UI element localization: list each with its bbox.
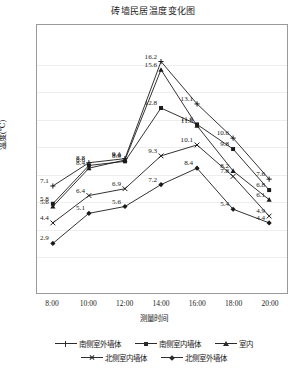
data-point-marker bbox=[50, 183, 55, 188]
series-layer: 7.18.89.116.213.110.67.65.88.68.912.811.… bbox=[37, 25, 287, 293]
data-point-label: 15.6 bbox=[145, 61, 158, 69]
y-axis-title: 温度(℃) bbox=[0, 120, 7, 150]
legend-row: 南侧室外墙体南侧室内墙体室内 bbox=[0, 338, 307, 349]
legend-label: 北侧室外墙体 bbox=[185, 352, 227, 363]
data-point-label: 13.1 bbox=[181, 95, 194, 103]
series-line bbox=[53, 168, 269, 243]
data-point-label: 9.8 bbox=[220, 140, 229, 148]
data-point-label: 8.4 bbox=[76, 159, 85, 167]
x-axis-title: 测量时间 bbox=[0, 312, 307, 323]
data-point-marker bbox=[122, 204, 127, 209]
legend-item[interactable]: 南侧室内墙体 bbox=[135, 338, 201, 349]
data-point-marker bbox=[267, 220, 272, 225]
data-point-label: 7.2 bbox=[148, 176, 157, 184]
plus-marker-icon bbox=[55, 340, 77, 348]
x-tick-label: 8:00 bbox=[45, 299, 58, 308]
x-tick-label: 10:00 bbox=[80, 299, 97, 308]
legend-item[interactable]: 南侧室外墙体 bbox=[55, 338, 121, 349]
data-point-label: 8.4 bbox=[184, 159, 193, 167]
data-point-marker bbox=[158, 182, 163, 187]
square-marker-icon bbox=[135, 340, 157, 348]
chart-page: 砖墙民居温度变化图 温度(℃) 7.18.89.116.213.110.67.6… bbox=[0, 0, 307, 390]
data-point-marker bbox=[231, 147, 235, 151]
data-point-label: 6.8 bbox=[256, 181, 265, 189]
legend-label: 北侧室内墙体 bbox=[105, 352, 147, 363]
data-point-label: 10.6 bbox=[217, 129, 230, 137]
data-point-label: 4.4 bbox=[256, 214, 265, 222]
x-tick-label: 14:00 bbox=[152, 299, 169, 308]
legend-row: 北侧室内墙体北侧室外墙体 bbox=[0, 352, 307, 363]
legend-label: 室内 bbox=[239, 338, 253, 349]
x-marker-icon bbox=[81, 354, 103, 362]
data-point-label: 6.9 bbox=[112, 180, 121, 188]
data-point-marker bbox=[159, 106, 163, 110]
legend-item[interactable]: 室内 bbox=[215, 338, 253, 349]
legend-label: 南侧室内墙体 bbox=[159, 338, 201, 349]
data-point-label: 12.8 bbox=[145, 99, 158, 107]
data-point-label: 6.4 bbox=[76, 187, 85, 195]
chart-title: 砖墙民居温度变化图 bbox=[0, 4, 307, 17]
data-point-label: 7.8 bbox=[220, 167, 229, 175]
data-point-label: 5.6 bbox=[112, 198, 121, 206]
data-point-label: 5.4 bbox=[220, 200, 229, 208]
data-point-label: 5.6 bbox=[40, 198, 49, 206]
data-point-label: 9.0 bbox=[112, 151, 121, 159]
diamond-marker-icon bbox=[161, 354, 183, 362]
data-point-marker bbox=[195, 143, 200, 148]
data-point-marker bbox=[159, 154, 164, 159]
plot-area: 7.18.89.116.213.110.67.65.88.68.912.811.… bbox=[36, 24, 288, 294]
data-point-marker bbox=[231, 174, 236, 179]
x-tick-label: 20:00 bbox=[261, 299, 278, 308]
legend-item[interactable]: 北侧室内墙体 bbox=[81, 352, 147, 363]
x-tick-label: 16:00 bbox=[189, 299, 206, 308]
data-point-label: 11.5 bbox=[181, 117, 194, 125]
data-point-marker bbox=[158, 67, 163, 72]
x-axis-ticks: 8:0010:0012:0014:0016:0018:0020:00 bbox=[36, 299, 288, 311]
x-tick-label: 12:00 bbox=[116, 299, 133, 308]
triangle-marker-icon bbox=[215, 340, 237, 348]
data-point-marker bbox=[267, 214, 272, 219]
data-point-label: 9.3 bbox=[148, 147, 157, 155]
legend-label: 南侧室外墙体 bbox=[79, 338, 121, 349]
data-point-marker bbox=[267, 188, 271, 192]
legend-item[interactable]: 北侧室外墙体 bbox=[161, 352, 227, 363]
data-point-label: 10.1 bbox=[181, 136, 194, 144]
data-point-label: 5.1 bbox=[76, 204, 85, 212]
data-point-label: 7.1 bbox=[40, 177, 49, 185]
data-point-label: 6.1 bbox=[256, 191, 265, 199]
data-point-label: 4.4 bbox=[40, 214, 49, 222]
x-tick-label: 18:00 bbox=[225, 299, 242, 308]
data-point-marker bbox=[50, 221, 55, 226]
series-line bbox=[53, 62, 269, 186]
legend: 南侧室外墙体南侧室内墙体室内北侧室内墙体北侧室外墙体 bbox=[0, 338, 307, 366]
data-point-label: 16.2 bbox=[145, 53, 158, 61]
data-point-label: 7.6 bbox=[256, 170, 265, 178]
data-point-label: 2.9 bbox=[40, 234, 49, 242]
